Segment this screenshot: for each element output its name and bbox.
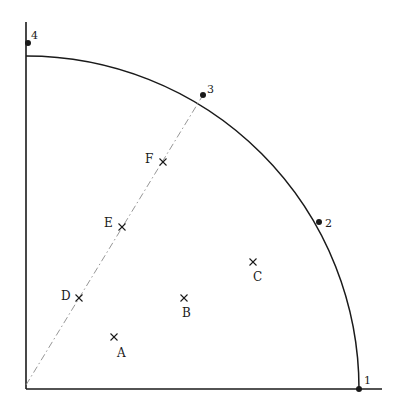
cross-marker-icon [76, 295, 83, 302]
cross-marker-icon [119, 224, 126, 231]
sample-point-D: D [61, 289, 83, 303]
cross-marker-icon [111, 334, 118, 341]
dashed-radial-line [26, 95, 203, 385]
arc-point-label: 4 [31, 29, 38, 42]
dot-marker-icon [200, 92, 206, 98]
cross-marker-icon [160, 159, 167, 166]
cross-marker-icon [181, 295, 188, 302]
arc-point-label: 1 [364, 374, 371, 387]
diagram-canvas: 1234 ABCDEF [0, 0, 404, 413]
arc-point-label: 3 [207, 83, 214, 96]
arc-point-4: 4 [25, 29, 38, 46]
sample-point-label: A [116, 346, 126, 360]
arc-path [26, 56, 359, 389]
arc-point-label: 2 [325, 217, 332, 230]
sample-point-label: F [145, 152, 153, 166]
sample-point-C: C [250, 259, 263, 285]
quarter-circle-arc [26, 56, 359, 389]
sample-point-B: B [181, 295, 192, 321]
sample-point-label: E [104, 216, 113, 230]
arc-point-3: 3 [200, 83, 214, 98]
sample-point-F: F [145, 152, 167, 166]
cross-marker-icon [250, 259, 257, 266]
dash-dot-line [26, 95, 203, 385]
dot-marker-icon [316, 219, 322, 225]
sample-point-label: B [182, 306, 191, 320]
arc-points: 1234 [25, 29, 371, 392]
sample-points: ABCDEF [61, 152, 262, 360]
dot-marker-icon [356, 386, 362, 392]
sample-point-label: D [61, 289, 71, 303]
diagram-figure: 1234 ABCDEF [0, 0, 404, 413]
sample-point-A: A [111, 334, 127, 361]
axes [26, 22, 382, 389]
sample-point-E: E [104, 216, 126, 231]
sample-point-label: C [253, 270, 262, 284]
